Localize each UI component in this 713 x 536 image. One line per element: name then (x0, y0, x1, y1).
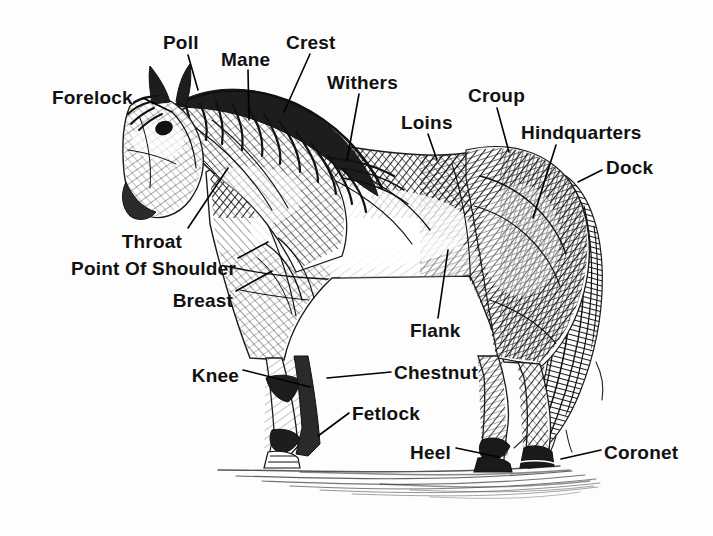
leader-line-dock (578, 170, 602, 182)
label-croup: Croup (468, 86, 525, 105)
label-knee: Knee (192, 366, 239, 385)
label-poll: Poll (163, 33, 199, 52)
label-chestnut: Chestnut (394, 363, 478, 382)
label-heel: Heel (410, 443, 451, 462)
label-coronet: Coronet (604, 443, 678, 462)
label-fetlock: Fetlock (352, 404, 420, 423)
label-withers: Withers (327, 73, 398, 92)
ears (149, 64, 191, 106)
leader-line-coronet (561, 450, 601, 459)
label-forelock: Forelock (52, 88, 133, 107)
label-hindquarters: Hindquarters (521, 123, 642, 142)
label-throat: Throat (122, 232, 182, 251)
ground-shadow (218, 466, 600, 498)
label-point-of-shoulder: Point Of Shoulder (71, 259, 236, 278)
leader-line-croup (497, 108, 509, 152)
leader-line-chestnut (327, 372, 391, 378)
leader-line-fetlock (318, 413, 349, 436)
label-dock: Dock (606, 158, 653, 177)
horse-anatomy-diagram: ForelockPollManeCrestWithersLoinsCroupHi… (0, 0, 713, 536)
label-breast: Breast (173, 291, 233, 310)
label-crest: Crest (286, 33, 336, 52)
label-flank: Flank (410, 321, 461, 340)
hindleg-near (474, 356, 512, 472)
label-mane: Mane (221, 50, 270, 69)
leader-line-mane (248, 70, 249, 120)
label-loins: Loins (401, 113, 453, 132)
